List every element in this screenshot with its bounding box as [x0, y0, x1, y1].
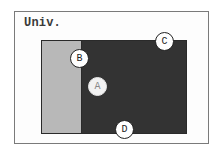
point-a: A: [88, 77, 107, 96]
point-b: B: [70, 49, 89, 68]
point-c: C: [155, 32, 174, 51]
dark-region: [41, 40, 187, 134]
point-d: D: [115, 120, 134, 139]
universe-label: Univ.: [24, 16, 61, 30]
